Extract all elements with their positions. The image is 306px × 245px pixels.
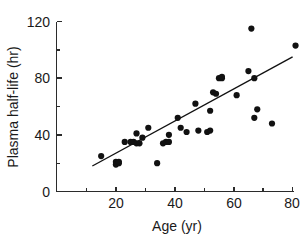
data-point bbox=[254, 106, 260, 112]
y-axis-title: Plasma half-life (hr) bbox=[5, 46, 21, 167]
y-tick-label-0: 0 bbox=[42, 184, 50, 200]
data-point bbox=[192, 101, 198, 107]
x-tick-label-20: 20 bbox=[108, 195, 124, 211]
data-point bbox=[251, 75, 257, 81]
data-point bbox=[234, 92, 240, 98]
data-point bbox=[166, 132, 172, 138]
data-point bbox=[292, 42, 298, 48]
y-tick-label-120: 120 bbox=[27, 14, 51, 30]
plot-canvas: 0 40 80 120 20 40 60 80 Age (yr) Plasma … bbox=[0, 0, 306, 245]
x-tick-label-60: 60 bbox=[226, 195, 242, 211]
x-axis-title: Age (yr) bbox=[152, 218, 202, 234]
data-point bbox=[154, 160, 160, 166]
data-point bbox=[251, 115, 257, 121]
data-point bbox=[175, 115, 181, 121]
data-point bbox=[133, 130, 139, 136]
x-tick-label-40: 40 bbox=[167, 195, 183, 211]
data-point bbox=[116, 159, 122, 165]
data-point bbox=[166, 139, 172, 145]
data-point bbox=[248, 25, 254, 31]
data-point bbox=[213, 91, 219, 97]
data-point bbox=[139, 135, 145, 141]
x-tick-label-80: 80 bbox=[284, 195, 300, 211]
regression-line bbox=[92, 57, 292, 166]
data-point bbox=[207, 108, 213, 114]
y-tick-label-40: 40 bbox=[34, 127, 50, 143]
page-edge-artifact bbox=[0, 239, 306, 245]
data-point bbox=[178, 125, 184, 131]
data-point bbox=[183, 129, 189, 135]
data-point bbox=[136, 140, 142, 146]
data-point bbox=[207, 127, 213, 133]
data-point bbox=[195, 127, 201, 133]
y-tick-label-80: 80 bbox=[34, 70, 50, 86]
data-point bbox=[219, 74, 225, 80]
scatter-plot-figure: 0 40 80 120 20 40 60 80 Age (yr) Plasma … bbox=[0, 0, 306, 245]
data-point bbox=[245, 68, 251, 74]
data-point bbox=[269, 120, 275, 126]
data-point bbox=[145, 125, 151, 131]
data-point bbox=[98, 153, 104, 159]
data-point bbox=[122, 139, 128, 145]
